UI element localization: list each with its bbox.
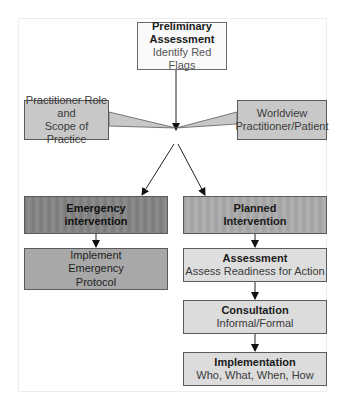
- node-title: Implementation: [214, 356, 295, 369]
- implementation-node: Implementation Who, What, When, How: [183, 352, 327, 386]
- node-text: Practitioner/Patient: [236, 120, 329, 133]
- node-subtitle: Who, What, When, How: [196, 369, 313, 382]
- node-title: Planned: [234, 202, 277, 215]
- practitioner-role-node: Practitioner Role and Scope of Practice: [24, 100, 109, 140]
- node-text: Practitioner Role: [26, 94, 107, 107]
- implement-emergency-protocol-node: Implement Emergency Protocol: [24, 248, 168, 290]
- role-callout-pointer: [109, 112, 176, 128]
- node-title: Preliminary: [152, 20, 212, 33]
- preliminary-assessment-node: Preliminary Assessment Identify Red Flag…: [137, 22, 227, 70]
- node-text: Worldview: [257, 107, 308, 120]
- node-title: Consultation: [221, 304, 288, 317]
- worldview-node: Worldview Practitioner/Patient: [237, 100, 327, 140]
- emergency-intervention-node: Emergency intervention: [24, 196, 168, 234]
- node-title: Assessment: [223, 252, 288, 265]
- consultation-node: Consultation Informal/Formal: [183, 300, 327, 334]
- planned-intervention-node: Planned Intervention: [183, 196, 327, 234]
- node-title: Assessment: [150, 33, 215, 46]
- node-text: Protocol: [76, 276, 116, 289]
- node-subtitle: Identify Red Flags: [138, 46, 226, 72]
- node-text: Implement: [70, 249, 121, 262]
- node-title: Intervention: [224, 215, 287, 228]
- worldview-callout-pointer: [176, 112, 237, 128]
- node-text: Emergency: [68, 262, 124, 275]
- node-text: and: [57, 107, 75, 120]
- node-subtitle: Assess Readiness for Action: [185, 265, 324, 278]
- assessment-node: Assessment Assess Readiness for Action: [183, 248, 327, 282]
- node-text: Scope of Practice: [25, 120, 108, 146]
- node-title: intervention: [65, 215, 128, 228]
- node-subtitle: Informal/Formal: [216, 317, 293, 330]
- node-title: Emergency: [66, 202, 125, 215]
